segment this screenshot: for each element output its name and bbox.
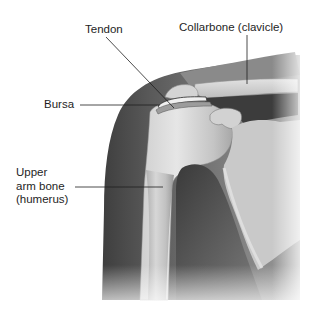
bursa-label: Bursa [44,98,74,112]
tendon-label: Tendon [85,23,123,37]
fade-right [272,40,310,318]
collarbone-label: Collarbone (clavicle) [179,21,283,35]
humerus-label: Upper arm bone (humerus) [16,166,68,207]
shoulder-diagram [0,0,310,318]
